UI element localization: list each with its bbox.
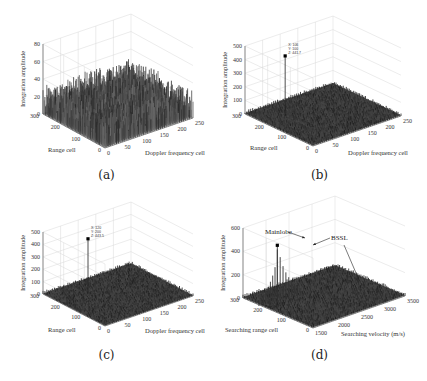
svg-text:100: 100 bbox=[31, 279, 40, 285]
svg-text:600: 600 bbox=[231, 225, 240, 231]
surface-plot-a: 0204060800100200300050100150200250Integr… bbox=[0, 0, 213, 190]
z-axis-label: Integration amplitude bbox=[219, 235, 226, 291]
y-axis-label: Range cell bbox=[48, 326, 76, 333]
z-axis-label: Integration amplitude bbox=[19, 51, 26, 107]
svg-text:200: 200 bbox=[31, 266, 40, 272]
caption-d: (d) bbox=[213, 348, 426, 362]
svg-text:250: 250 bbox=[195, 120, 204, 126]
svg-text:100: 100 bbox=[71, 136, 80, 142]
subplot-b: X: 106Y: 100Z: 441.701002003004005000100… bbox=[213, 0, 426, 190]
x-axis-label: Doppler frequency cell bbox=[145, 149, 205, 156]
datatip-marker bbox=[284, 54, 287, 57]
caption-a: (a) bbox=[0, 168, 213, 182]
svg-text:300: 300 bbox=[30, 293, 39, 299]
svg-text:100: 100 bbox=[71, 314, 80, 320]
caption-b: (b) bbox=[213, 168, 426, 182]
svg-text:200: 200 bbox=[177, 304, 186, 310]
svg-text:0: 0 bbox=[306, 145, 309, 151]
svg-text:400: 400 bbox=[231, 248, 240, 254]
svg-text:300: 300 bbox=[232, 113, 241, 119]
svg-text:500: 500 bbox=[31, 229, 40, 235]
svg-text:300: 300 bbox=[230, 297, 239, 303]
svg-text:0: 0 bbox=[98, 147, 101, 153]
svg-text:200: 200 bbox=[231, 272, 240, 278]
datatip-marker bbox=[276, 244, 279, 247]
x-axis-label: Doppler frequency cell bbox=[145, 327, 205, 334]
datatip-text: Z: 443.5 bbox=[91, 234, 104, 238]
svg-text:150: 150 bbox=[160, 310, 169, 316]
svg-text:100: 100 bbox=[277, 134, 286, 140]
datatip-marker bbox=[86, 237, 89, 240]
subplot-a: 0204060800100200300050100150200250Integr… bbox=[0, 0, 213, 190]
svg-text:200: 200 bbox=[51, 304, 60, 310]
z-axis-label: Integration amplitude bbox=[19, 235, 26, 291]
svg-text:200: 200 bbox=[51, 124, 60, 130]
svg-text:400: 400 bbox=[233, 57, 242, 63]
svg-text:250: 250 bbox=[195, 298, 204, 304]
annotation-mainlobe: Mainlobe bbox=[265, 228, 292, 236]
svg-text:100: 100 bbox=[277, 317, 286, 323]
svg-text:200: 200 bbox=[253, 307, 262, 313]
subplot-d: 0200400600010020030015002000250030003500… bbox=[213, 190, 426, 380]
svg-text:3000: 3000 bbox=[384, 306, 396, 312]
svg-text:0: 0 bbox=[306, 327, 309, 333]
svg-text:200: 200 bbox=[385, 124, 394, 130]
surface-plot-b: X: 106Y: 100Z: 441.701002003004005000100… bbox=[213, 0, 426, 190]
svg-text:1500: 1500 bbox=[315, 330, 327, 336]
svg-text:500: 500 bbox=[233, 43, 242, 49]
svg-text:300: 300 bbox=[31, 254, 40, 260]
svg-text:60: 60 bbox=[34, 59, 40, 65]
y-axis-label: Searching range cell bbox=[225, 326, 278, 333]
svg-text:150: 150 bbox=[160, 132, 169, 138]
svg-text:0: 0 bbox=[107, 328, 110, 334]
surface-mesh bbox=[245, 82, 401, 146]
y-axis-label: Range cell bbox=[48, 146, 76, 153]
svg-text:100: 100 bbox=[350, 136, 359, 142]
surface-mesh bbox=[43, 262, 193, 326]
x-axis-label: Searching velocity (m/s) bbox=[341, 330, 405, 338]
surface-mesh bbox=[43, 59, 193, 148]
z-axis-label: Integration amplitude bbox=[221, 52, 228, 108]
svg-text:0: 0 bbox=[107, 150, 110, 156]
svg-text:40: 40 bbox=[34, 76, 40, 82]
subplot-c: X: 120Y: 200Z: 443.501002003004005000100… bbox=[0, 190, 213, 380]
svg-text:50: 50 bbox=[333, 142, 339, 148]
caption-c: (c) bbox=[0, 348, 213, 362]
svg-text:80: 80 bbox=[34, 41, 40, 47]
svg-text:50: 50 bbox=[125, 322, 131, 328]
svg-text:20: 20 bbox=[34, 94, 40, 100]
svg-text:2500: 2500 bbox=[361, 314, 373, 320]
svg-text:150: 150 bbox=[368, 130, 377, 136]
svg-text:100: 100 bbox=[142, 138, 151, 144]
svg-text:3500: 3500 bbox=[407, 298, 419, 304]
x-axis-label: Doppler frequency cell bbox=[348, 149, 408, 156]
svg-text:250: 250 bbox=[403, 118, 412, 124]
svg-text:200: 200 bbox=[255, 124, 264, 130]
svg-text:0: 0 bbox=[315, 148, 318, 154]
svg-text:400: 400 bbox=[31, 241, 40, 247]
svg-text:0: 0 bbox=[98, 325, 101, 331]
datatip-text: Z: 441.7 bbox=[288, 51, 301, 55]
svg-text:50: 50 bbox=[125, 144, 131, 150]
surface-mesh bbox=[243, 264, 405, 328]
svg-text:200: 200 bbox=[177, 126, 186, 132]
svg-text:2000: 2000 bbox=[338, 322, 350, 328]
svg-text:300: 300 bbox=[30, 113, 39, 119]
svg-text:300: 300 bbox=[233, 70, 242, 76]
y-axis-label: Range cell bbox=[250, 144, 278, 151]
svg-text:200: 200 bbox=[233, 84, 242, 90]
svg-text:100: 100 bbox=[233, 97, 242, 103]
annotation-bssl: BSSL bbox=[331, 234, 348, 242]
svg-text:100: 100 bbox=[142, 316, 151, 322]
